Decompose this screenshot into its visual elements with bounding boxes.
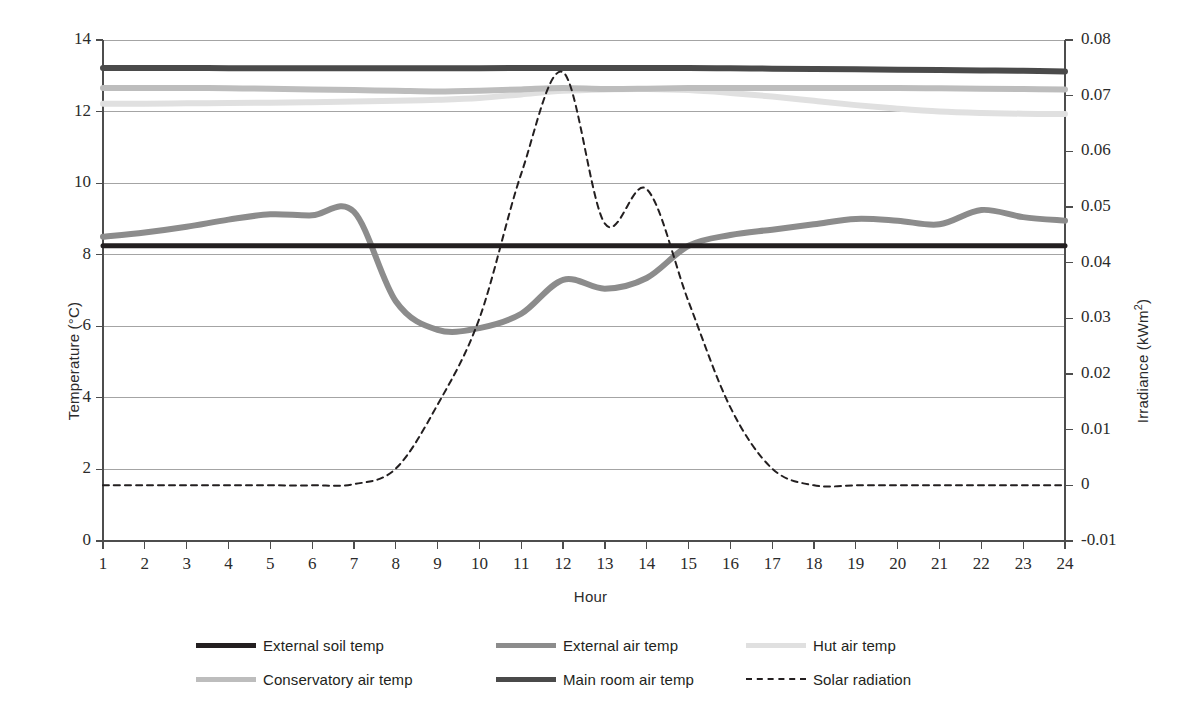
legend-item[interactable]: Conservatory air temp (196, 671, 496, 688)
series-line (103, 89, 1065, 114)
y-axis-right-tick-label: 0.03 (1081, 307, 1151, 327)
y-axis-left-tick-label: 8 (11, 244, 91, 264)
series-line (103, 72, 1065, 487)
y-axis-right-tick-label: 0 (1081, 474, 1151, 494)
y-axis-left-tick-label: 10 (11, 172, 91, 192)
legend-swatch-external-air-temp (496, 643, 556, 648)
y-axis-left-tick-label: 2 (11, 458, 91, 478)
chart-legend: External soil tempExternal air tempHut a… (196, 628, 986, 696)
chart-container: Temperature (°C) Irradiance (kWm2) Hour … (0, 0, 1181, 722)
legend-label: Main room air temp (563, 671, 694, 688)
y-axis-right-tick-label: 0.08 (1081, 29, 1151, 49)
legend-swatch-conservatory-air-temp (196, 677, 256, 682)
legend-label: Solar radiation (813, 671, 911, 688)
y-axis-right-tick-label: 0.01 (1081, 419, 1151, 439)
legend-label: Hut air temp (813, 637, 896, 654)
series-line (103, 68, 1065, 72)
y-axis-left-tick-label: 12 (11, 101, 91, 121)
legend-label: External air temp (563, 637, 678, 654)
y-axis-right-tick-label: 0.06 (1081, 140, 1151, 160)
x-axis-tick-label: 24 (1040, 554, 1090, 574)
legend-item[interactable]: Main room air temp (496, 671, 746, 688)
y-axis-right-tick-label: -0.01 (1081, 530, 1151, 550)
legend-label: External soil temp (263, 637, 384, 654)
y-axis-left-tick-label: 4 (11, 387, 91, 407)
legend-item[interactable]: External air temp (496, 637, 746, 654)
y-axis-right-tick-label: 0.05 (1081, 196, 1151, 216)
legend-item[interactable]: Solar radiation (746, 671, 986, 688)
y-axis-right-tick-label: 0.07 (1081, 85, 1151, 105)
legend-swatch-solar-radiation (746, 678, 806, 680)
x-axis-title: Hour (0, 588, 1181, 605)
y-axis-left-tick-label: 0 (11, 530, 91, 550)
legend-swatch-hut-air-temp (746, 643, 806, 648)
legend-item[interactable]: External soil temp (196, 637, 496, 654)
legend-label: Conservatory air temp (263, 671, 413, 688)
y-axis-right-tick-label: 0.02 (1081, 363, 1151, 383)
legend-swatch-external-soil-temp (196, 643, 256, 648)
y-axis-right-tick-label: 0.04 (1081, 252, 1151, 272)
legend-item[interactable]: Hut air temp (746, 637, 986, 654)
y-axis-left-tick-label: 14 (11, 29, 91, 49)
series-line (103, 206, 1065, 332)
series-line (103, 88, 1065, 92)
legend-swatch-main-room-air-temp (496, 677, 556, 682)
chart-plot-area (0, 0, 1181, 722)
y-axis-left-tick-label: 6 (11, 315, 91, 335)
